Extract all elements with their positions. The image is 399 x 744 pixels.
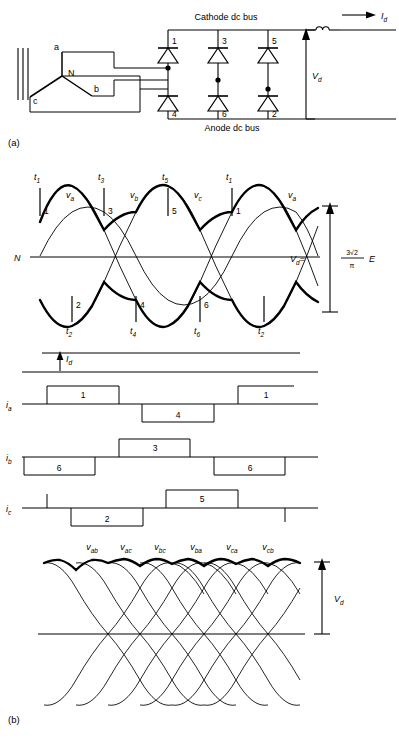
thyristor-1-number: 1 bbox=[172, 36, 177, 46]
ac-node-a bbox=[165, 65, 170, 70]
dc-inductor-icon bbox=[306, 27, 396, 30]
thyristor-3 bbox=[208, 48, 228, 63]
wave-device-3: 3 bbox=[108, 206, 113, 216]
time-marker-t6: t6 bbox=[194, 326, 201, 338]
vd-measure-arrow bbox=[302, 28, 310, 119]
thyristor-2-number: 2 bbox=[272, 109, 277, 119]
ic-pulse-2-number: 2 bbox=[105, 514, 110, 524]
neutral-axis-label: N bbox=[14, 253, 21, 263]
wave-vb-thin bbox=[40, 185, 318, 327]
lv-wave-11 bbox=[204, 563, 300, 680]
ib-axis-label: ib bbox=[6, 453, 12, 465]
lv-label-vca: vca bbox=[226, 542, 238, 554]
time-marker-t1-repeat: t1 bbox=[226, 172, 233, 184]
ia-axis-label: ia bbox=[6, 400, 12, 412]
ia-pulse-1-repeat-number: 1 bbox=[264, 390, 269, 400]
lv-output-envelope bbox=[44, 559, 300, 570]
lv-label-vab: vab bbox=[86, 542, 98, 554]
vd-label: Vd bbox=[312, 71, 322, 83]
current-row-ia: ia 1 4 1 bbox=[6, 386, 318, 422]
ac-node-c bbox=[265, 86, 270, 91]
anode-dc-bus-label: Anode dc bus bbox=[204, 123, 260, 133]
wave-device-5: 5 bbox=[172, 206, 177, 216]
wave-device-1-repeat: 1 bbox=[236, 206, 241, 216]
time-marker-t1: t1 bbox=[34, 172, 41, 184]
thyristor-6-number: 6 bbox=[222, 109, 227, 119]
id-output-label: Id bbox=[381, 11, 388, 23]
ia-pulse-1-number: 1 bbox=[81, 390, 86, 400]
supply-hatch-icon bbox=[18, 48, 28, 100]
thyristor-1 bbox=[158, 48, 178, 63]
vd-span-bracket bbox=[322, 202, 338, 312]
phase-voltage-plot: N t1 t3 bbox=[14, 172, 376, 338]
figure-root: a N b c Cathode dc bus Anode dc bus bbox=[0, 0, 399, 744]
wave-label-vb: vb bbox=[130, 190, 139, 202]
lv-wave-12 bbox=[204, 588, 300, 705]
line-voltage-plot: vab vac vbc vba vca vcb Vd (b) bbox=[8, 542, 344, 725]
wave-vc-thin bbox=[40, 207, 318, 305]
vd-formula-lhs: Vd= bbox=[290, 254, 305, 266]
time-marker-t4: t4 bbox=[130, 326, 137, 338]
current-row-ib: ib 6 3 6 bbox=[6, 439, 318, 475]
ib-pulse-6-repeat-number: 6 bbox=[248, 463, 253, 473]
lv-label-vac: vac bbox=[120, 542, 132, 554]
ib-pulse-3-number: 3 bbox=[153, 443, 158, 453]
phase-c-label: c bbox=[33, 96, 38, 106]
panel-a-tag: (a) bbox=[8, 137, 20, 148]
ib-pulse-6-number: 6 bbox=[57, 463, 62, 473]
thyristor-5 bbox=[258, 48, 278, 63]
thyristor-4-number: 4 bbox=[172, 109, 177, 119]
wave-label-va: va bbox=[66, 190, 75, 202]
wave-label-vc: vc bbox=[194, 190, 203, 202]
wave-label-va-repeat: va bbox=[288, 190, 297, 202]
output-current-arrow bbox=[342, 12, 376, 19]
panel-b-tag: (b) bbox=[8, 714, 20, 725]
ia-pulse-4-number: 4 bbox=[176, 410, 181, 420]
cathode-dc-bus-label: Cathode dc bus bbox=[194, 12, 258, 22]
wave-va-thin bbox=[40, 185, 318, 327]
thyristor-3-number: 3 bbox=[222, 36, 227, 46]
lv-vd-label: Vd bbox=[334, 594, 344, 606]
vd-formula-numerator: 3√2 bbox=[346, 249, 358, 256]
lv-label-vcb: vcb bbox=[262, 542, 274, 554]
id-level-label: Id bbox=[66, 354, 73, 366]
wave-device-6: 6 bbox=[204, 300, 209, 310]
source-wiring bbox=[30, 52, 168, 112]
thyristor-5-number: 5 bbox=[272, 36, 277, 46]
lv-label-vbc: vbc bbox=[154, 542, 166, 554]
time-marker-t5: t5 bbox=[162, 172, 169, 184]
ac-node-b bbox=[215, 77, 220, 82]
wye-source bbox=[30, 52, 92, 97]
circuit-diagram: a N b c Cathode dc bus Anode dc bus bbox=[8, 11, 396, 148]
vd-formula-denominator: π bbox=[350, 262, 355, 269]
wave-device-1: 1 bbox=[44, 206, 49, 216]
id-level-arrow bbox=[57, 351, 64, 371]
phase-b-label: b bbox=[94, 84, 99, 94]
ic-axis-label: ic bbox=[6, 504, 12, 516]
ic-pulse-5-number: 5 bbox=[200, 494, 205, 504]
lv-label-vba: vba bbox=[190, 542, 202, 554]
vd-formula-rhs: E bbox=[369, 254, 376, 264]
lv-vd-bracket bbox=[314, 558, 330, 634]
wave-device-2: 2 bbox=[76, 300, 81, 310]
current-row-ic: ic 2 5 bbox=[6, 490, 318, 526]
time-marker-t3: t3 bbox=[98, 172, 105, 184]
dc-current-reference: Id bbox=[22, 351, 318, 372]
phase-a-label: a bbox=[54, 42, 59, 52]
wave-device-4: 4 bbox=[140, 300, 145, 310]
